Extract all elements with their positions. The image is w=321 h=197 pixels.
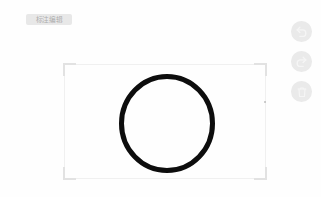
- side-toolbar: [291, 21, 312, 102]
- crop-handle-bottom-right[interactable]: [254, 167, 267, 180]
- crop-edge-bottom: [64, 178, 266, 179]
- redo-button[interactable]: [291, 51, 312, 72]
- trash-can-icon: [296, 86, 308, 98]
- crop-edge-left: [64, 64, 65, 179]
- undo-arrow-icon: [295, 25, 308, 38]
- delete-button[interactable]: [291, 81, 312, 102]
- redo-arrow-icon: [295, 55, 308, 68]
- circle-stroke: [122, 77, 213, 171]
- mode-label-text: 标注编辑: [36, 14, 63, 24]
- crop-edge-top: [64, 64, 266, 65]
- crop-handle-bottom-left[interactable]: [63, 167, 76, 180]
- drawn-circle-annotation[interactable]: [118, 73, 216, 174]
- app-root: 标注编辑: [0, 0, 321, 197]
- mode-label-chip: 标注编辑: [26, 14, 72, 25]
- crop-handle-top-right[interactable]: [254, 63, 267, 76]
- undo-button[interactable]: [291, 21, 312, 42]
- crop-edge-right: [265, 64, 266, 179]
- crop-handle-top-left[interactable]: [63, 63, 76, 76]
- point-marker-dot: [264, 101, 266, 103]
